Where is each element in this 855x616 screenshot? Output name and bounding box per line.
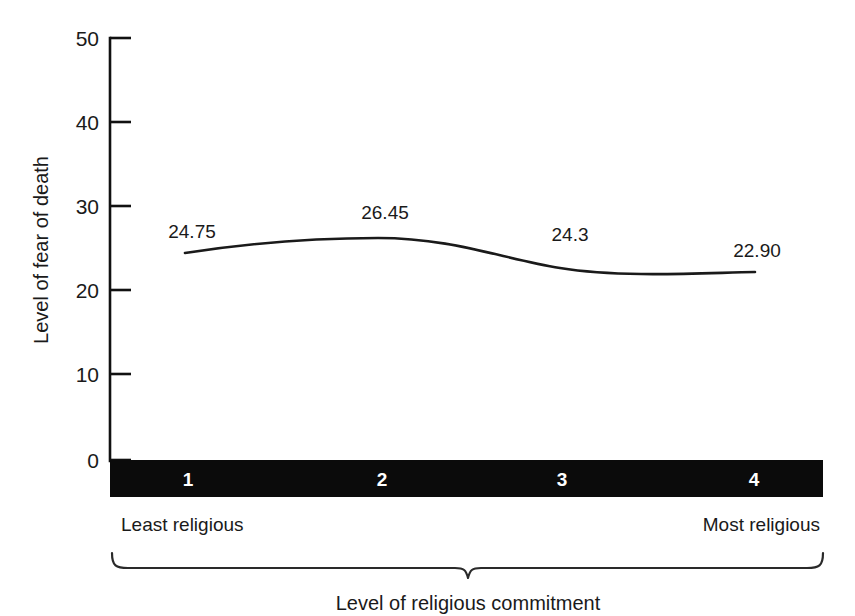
data-label-point-1: 24.75 (168, 221, 216, 242)
x-band-number-2: 2 (377, 469, 388, 490)
chart-container: Level of fear of death 50 40 30 20 10 0 … (0, 0, 855, 616)
data-label-point-2: 26.45 (361, 202, 409, 223)
y-tick-label-50: 50 (76, 27, 99, 50)
data-label-point-4: 22.90 (733, 240, 781, 261)
x-axis-caption: Level of religious commitment (336, 592, 601, 614)
x-axis-band (110, 460, 823, 497)
y-tick-label-20: 20 (76, 279, 99, 302)
y-axis-label: Level of fear of death (30, 156, 52, 344)
y-tick-label-10: 10 (76, 363, 99, 386)
x-axis-anchor-most: Most religious (703, 514, 820, 535)
x-band-number-3: 3 (557, 469, 568, 490)
y-tick-label-0: 0 (87, 449, 99, 472)
x-axis-anchor-least: Least religious (121, 514, 244, 535)
y-tick-label-40: 40 (76, 111, 99, 134)
data-line-series (185, 238, 755, 274)
y-tick-label-30: 30 (76, 195, 99, 218)
data-label-point-3: 24.3 (552, 224, 589, 245)
x-band-number-1: 1 (183, 469, 194, 490)
x-axis-brace (112, 553, 823, 578)
x-band-number-4: 4 (749, 469, 760, 490)
fear-of-death-line-chart: Level of fear of death 50 40 30 20 10 0 … (0, 0, 855, 616)
